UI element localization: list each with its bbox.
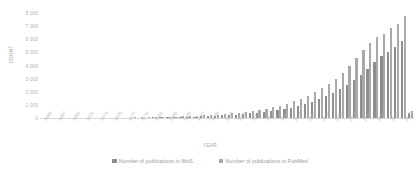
bar-group <box>262 13 269 118</box>
bar-group <box>102 13 109 118</box>
bar-group <box>359 13 366 118</box>
bar-group <box>123 13 130 118</box>
y-axis-tick-label: 5 000 <box>14 49 38 55</box>
bar-group <box>130 13 137 118</box>
bar-group <box>282 13 289 118</box>
bar <box>355 58 357 118</box>
y-axis-tick-label: 4 000 <box>14 63 38 69</box>
bar <box>369 43 371 118</box>
bar-group <box>317 13 324 118</box>
bar-group <box>310 13 317 118</box>
bar-group <box>199 13 206 118</box>
y-axis-tick-label: 6 000 <box>14 36 38 42</box>
bar-group <box>179 13 186 118</box>
bar <box>404 16 406 118</box>
bar <box>362 50 364 118</box>
bar-group <box>54 13 61 118</box>
bar-group <box>165 13 172 118</box>
bar <box>397 24 399 119</box>
bar-group <box>234 13 241 118</box>
bar-group <box>393 13 400 118</box>
y-axis-tick-label: 8 000 <box>14 10 38 16</box>
bar-group <box>206 13 213 118</box>
bar-group <box>137 13 144 118</box>
publications-bar-chart: COUNT 01 0002 0003 0004 0005 0006 0007 0… <box>0 0 420 180</box>
bar-group <box>324 13 331 118</box>
bar-group <box>331 13 338 118</box>
bar-group <box>255 13 262 118</box>
bar-group <box>109 13 116 118</box>
bar-group <box>269 13 276 118</box>
legend-swatch-icon <box>112 159 117 164</box>
bar-group <box>379 13 386 118</box>
bar <box>321 88 323 118</box>
bar-group <box>192 13 199 118</box>
y-axis-label: COUNT <box>9 31 14 79</box>
bar-group <box>213 13 220 118</box>
bar-group <box>400 13 407 118</box>
bar-group <box>158 13 165 118</box>
bar-group <box>144 13 151 118</box>
legend-swatch-icon <box>219 159 224 164</box>
bar-group <box>303 13 310 118</box>
y-axis-tick-label: 0 <box>14 115 38 121</box>
bar-group <box>407 13 414 118</box>
bar-group <box>116 13 123 118</box>
bar-group <box>366 13 373 118</box>
x-axis-label: YEAR <box>0 143 420 148</box>
bar-group <box>82 13 89 118</box>
bar-group <box>61 13 68 118</box>
bar <box>348 66 350 118</box>
y-axis-tick-label: 2 000 <box>14 89 38 95</box>
bar-group <box>220 13 227 118</box>
bar <box>390 28 392 118</box>
bar <box>383 34 385 118</box>
bar-group <box>338 13 345 118</box>
bar-group <box>227 13 234 118</box>
bar-group <box>352 13 359 118</box>
bar-group <box>185 13 192 118</box>
x-axis-ticks: 1965196719691971197319751977197919811983… <box>40 119 414 143</box>
legend-item[interactable]: Number of publications in PubMed <box>219 158 308 164</box>
y-axis-tick-label: 7 000 <box>14 23 38 29</box>
legend-label: Number of publications in PubMed <box>225 158 307 164</box>
bar-group <box>386 13 393 118</box>
bar-group <box>345 13 352 118</box>
bar <box>335 79 337 118</box>
legend-item[interactable]: Number of publications in WoS <box>112 158 192 164</box>
bar-group <box>68 13 75 118</box>
y-axis-ticks: 01 0002 0003 0004 0005 0006 0007 0008 00… <box>14 13 38 118</box>
bar-group <box>372 13 379 118</box>
y-axis-tick-label: 1 000 <box>14 102 38 108</box>
bar-group <box>241 13 248 118</box>
bar-group <box>248 13 255 118</box>
bar-group <box>47 13 54 118</box>
bar <box>376 37 378 118</box>
bar-group <box>289 13 296 118</box>
chart-legend: Number of publications in WoSNumber of p… <box>0 158 420 164</box>
plot-area <box>40 13 414 118</box>
bar-group <box>172 13 179 118</box>
y-axis-tick-label: 3 000 <box>14 76 38 82</box>
bar-group <box>275 13 282 118</box>
legend-label: Number of publications in WoS <box>119 158 193 164</box>
bar-group <box>40 13 47 118</box>
bar-group <box>296 13 303 118</box>
bar-group <box>75 13 82 118</box>
bar-group <box>151 13 158 118</box>
bar-group <box>88 13 95 118</box>
bar-group <box>95 13 102 118</box>
